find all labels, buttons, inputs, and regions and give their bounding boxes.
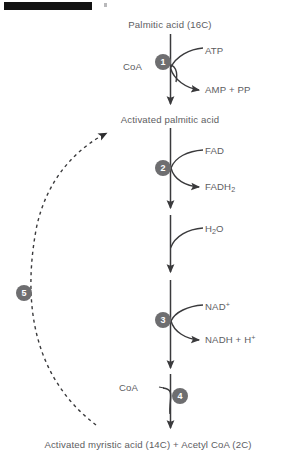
metabolite-label-fadh2: FADH2 — [205, 182, 235, 194]
arrow-atp-in — [171, 48, 204, 68]
arrow-amp-pp-out — [171, 68, 200, 90]
pathway-diagram: Palmitic acid (16C) ATP CoA AMP + PP Act… — [0, 0, 296, 470]
metabolite-label-nad: NAD+ — [205, 301, 230, 312]
step-4-arrows — [159, 387, 171, 414]
hydration-arrow — [171, 228, 204, 248]
fadh2-subscript: 2 — [231, 185, 235, 194]
arrow-h2o-in — [171, 228, 204, 248]
step-badge-2: 2 — [155, 160, 171, 176]
recycle-loop — [31, 134, 105, 425]
water-o: O — [216, 223, 224, 234]
nad-superscript: + — [226, 300, 230, 309]
step-badge-1: 1 — [155, 54, 171, 70]
arrow-coa-step4-in — [163, 388, 171, 414]
metabolite-label-atp: ATP — [205, 46, 223, 57]
nadh-base: NADH + H — [205, 334, 251, 345]
metabolite-label-water: H2O — [205, 224, 224, 236]
arrow-fad-in — [171, 150, 203, 168]
node-label-start: Palmitic acid (16C) — [128, 20, 211, 31]
node-label-end: Activated myristic acid (14C) + Acetyl C… — [44, 440, 251, 451]
metabolite-label-coa-step4: CoA — [119, 383, 138, 394]
arrow-nad-in — [171, 305, 203, 321]
pathway-graphics — [0, 0, 296, 470]
arrow-recycle-dashed — [31, 134, 105, 425]
node-label-activated-palmitic-acid: Activated palmitic acid — [121, 115, 219, 126]
metabolite-label-fad: FAD — [205, 146, 224, 157]
arrow-nadh-out — [171, 321, 199, 340]
metabolite-label-amp-pp: AMP + PP — [205, 85, 251, 96]
step-badge-5: 5 — [16, 285, 32, 301]
nadh-superscript: + — [251, 333, 255, 342]
step-badge-4: 4 — [172, 388, 188, 404]
step-3-arrows — [171, 305, 203, 340]
leader-coa-step4 — [159, 387, 164, 388]
fadh2-base: FADH — [205, 181, 231, 192]
step-2-arrows — [171, 150, 203, 187]
metabolite-label-coa-step1: CoA — [123, 62, 142, 73]
nad-base: NAD — [205, 301, 226, 312]
step-badge-3: 3 — [155, 312, 171, 328]
arrow-fadh2-out — [171, 168, 199, 187]
step-1-arrows — [163, 48, 203, 90]
metabolite-label-nadh: NADH + H+ — [205, 334, 255, 345]
